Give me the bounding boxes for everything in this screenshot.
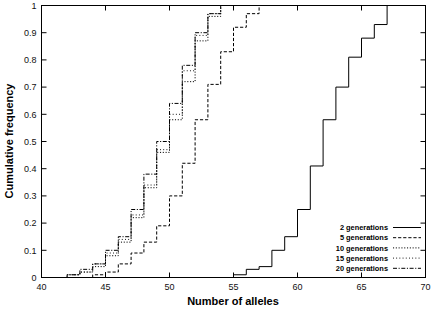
x-tick-label: 45: [100, 282, 110, 292]
x-tick-label: 55: [228, 282, 238, 292]
y-tick-label: 0.7: [24, 82, 37, 92]
y-tick-label: 0: [31, 273, 36, 283]
legend-label-10-generations: 10 generations: [336, 244, 388, 253]
legend-label-15-generations: 15 generations: [336, 254, 388, 263]
y-tick-label: 0.3: [24, 191, 37, 201]
y-tick-label: 0.8: [24, 55, 37, 65]
y-tick-label: 0.2: [24, 218, 37, 228]
y-tick-label: 0.1: [24, 246, 37, 256]
legend-label-20-generations: 20 generations: [336, 264, 388, 273]
cdf-chart: 40455055606570 00.10.20.30.40.50.60.70.8…: [0, 0, 442, 311]
y-tick-label: 0.5: [24, 137, 37, 147]
y-tick-label: 1: [31, 1, 36, 11]
x-axis-title: Number of alleles: [187, 295, 279, 307]
legend-label-5-generations: 5 generations: [340, 233, 388, 242]
chart-canvas: 40455055606570 00.10.20.30.40.50.60.70.8…: [0, 0, 442, 311]
x-tick-label: 60: [292, 282, 302, 292]
x-tick-label: 50: [164, 282, 174, 292]
y-axis-title: Cumulative frequency: [3, 83, 15, 199]
x-tick-label: 65: [356, 282, 366, 292]
y-tick-label: 0.4: [24, 164, 37, 174]
y-tick-label: 0.6: [24, 110, 37, 120]
y-tick-label: 0.9: [24, 28, 37, 38]
x-tick-label: 40: [36, 282, 46, 292]
legend-label-2-generations: 2 generations: [340, 223, 388, 232]
x-tick-label: 70: [420, 282, 430, 292]
